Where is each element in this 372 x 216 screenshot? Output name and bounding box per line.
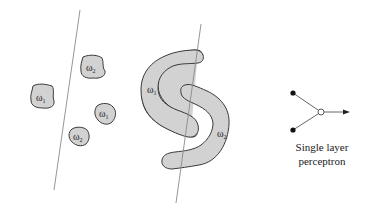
blob-omega2-bottom: ω2 <box>69 127 89 146</box>
output-arrow-icon <box>343 110 350 115</box>
diagram-canvas: ω1 ω2 ω1 ω2 ω1 ω2 Single layer perceptro <box>0 0 372 216</box>
output-neuron-icon <box>318 109 324 115</box>
blob-omega1-right: ω1 <box>95 103 116 124</box>
input-edge-1 <box>293 93 318 110</box>
blob-omega1-left: ω1 <box>31 84 54 108</box>
perceptron-diagram: Single layer perceptron <box>290 90 350 167</box>
blob-omega2-top: ω2 <box>81 55 105 78</box>
input-node-2-icon <box>290 127 295 132</box>
decision-boundary-line-1 <box>54 10 80 190</box>
input-node-1-icon <box>290 90 295 95</box>
caption-line-1: Single layer <box>296 141 349 153</box>
caption-line-2: perceptron <box>298 155 346 167</box>
input-edge-2 <box>293 114 318 130</box>
